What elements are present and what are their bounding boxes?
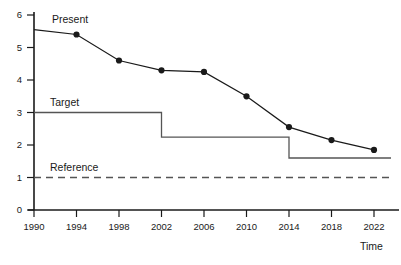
series-present-markers	[73, 31, 377, 153]
y-tick-label-6: 6	[8, 10, 22, 20]
series-target-line	[34, 113, 391, 159]
y-tick-label-2: 2	[8, 140, 22, 150]
data-point	[286, 124, 292, 130]
x-tick-label-2010: 2010	[227, 222, 267, 232]
x-tick-label-1990: 1990	[14, 222, 54, 232]
y-tick-label-0: 0	[8, 205, 22, 215]
x-tick-label-2018: 2018	[312, 222, 352, 232]
x-tick-label-2006: 2006	[184, 222, 224, 232]
data-point	[158, 67, 164, 73]
x-tick-label-2002: 2002	[142, 222, 182, 232]
y-tick-label-1: 1	[8, 173, 22, 183]
series-label-target: Target	[50, 97, 79, 108]
series-label-reference: Reference	[50, 162, 98, 173]
y-tick-label-4: 4	[8, 75, 22, 85]
x-tick-label-2014: 2014	[269, 222, 309, 232]
data-point	[371, 147, 377, 153]
data-point	[243, 93, 249, 99]
data-point	[116, 57, 122, 63]
x-tick-marks	[34, 210, 374, 217]
x-tick-label-1994: 1994	[57, 222, 97, 232]
series-label-present: Present	[52, 14, 88, 25]
chart-container: 6 5 4 3 2 1 0 1990 1994 1998 2002 2006 2…	[0, 0, 401, 265]
x-tick-label-2022: 2022	[354, 222, 394, 232]
data-point	[201, 69, 207, 75]
y-tick-marks	[27, 15, 34, 210]
x-tick-label-1998: 1998	[99, 222, 139, 232]
y-tick-label-5: 5	[8, 43, 22, 53]
data-point	[328, 137, 334, 143]
y-tick-label-3: 3	[8, 108, 22, 118]
series-present-line	[34, 30, 374, 150]
x-axis-title: Time	[360, 241, 383, 252]
data-point	[73, 31, 79, 37]
